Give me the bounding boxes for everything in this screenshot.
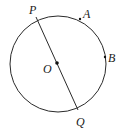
center-point-o [55, 61, 59, 65]
label-a: A [82, 7, 91, 21]
point-a [79, 18, 81, 20]
label-q: Q [76, 115, 85, 129]
circle-diagram: P A B O Q [0, 0, 121, 131]
label-o: O [43, 62, 52, 76]
point-b [104, 56, 106, 58]
label-b: B [108, 51, 116, 65]
label-p: P [28, 3, 37, 17]
